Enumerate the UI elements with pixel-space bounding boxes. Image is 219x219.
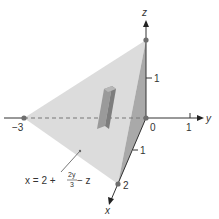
plane-equation: x = 2 + 2y 3 − z	[25, 171, 91, 188]
x-two-label: 2	[123, 180, 129, 191]
tetrahedron-diagram: z y x 0 −3 1 1 1 2 x = 2 + 2y 3 − z	[0, 0, 219, 219]
equation-lhs: x = 2 +	[25, 175, 56, 186]
y-arrow-icon	[197, 115, 204, 121]
z-one-label: 1	[154, 73, 160, 84]
x-axis-label: x	[104, 205, 111, 216]
x-arrow-icon	[108, 197, 114, 205]
equation-frac-num: 2y	[68, 171, 76, 179]
equation-leader-dot	[79, 150, 81, 152]
equation-rhs: − z	[77, 175, 91, 186]
vertex-origin	[143, 115, 148, 120]
x-one-label: 1	[140, 145, 146, 156]
origin-label: 0	[150, 122, 156, 133]
vertex-y-neg3	[21, 115, 26, 120]
y-neg3-label: −3	[12, 122, 24, 133]
vertex-z-2	[143, 37, 148, 42]
z-axis-label: z	[141, 7, 147, 18]
slanted-face	[24, 40, 146, 184]
y-axis-label: y	[205, 113, 212, 124]
vertex-x-2	[115, 181, 120, 186]
equation-frac-den: 3	[70, 181, 74, 188]
equation-leader-line	[61, 151, 80, 172]
y-one-label: 1	[186, 122, 192, 133]
z-arrow-icon	[143, 20, 149, 27]
